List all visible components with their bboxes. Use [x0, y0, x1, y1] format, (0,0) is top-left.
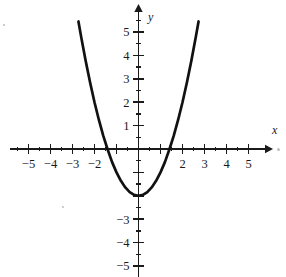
axis-labels-group: x y: [147, 10, 278, 137]
x-tick-label: 4: [223, 157, 230, 171]
y-axis-label: y: [147, 10, 154, 24]
scan-speck-right: [277, 148, 280, 151]
y-axis-arrowhead: [134, 4, 142, 12]
y-tick-label: −3: [116, 213, 129, 227]
x-axis-label: x: [271, 123, 278, 137]
x-axis-arrowhead: [265, 145, 273, 153]
tick-marks-group: [18, 20, 249, 266]
x-tick-label: 2: [179, 157, 185, 171]
graph-figure: −5−4−3−2234554321−3−4−5 x y: [0, 0, 286, 277]
x-tick-label: −3: [66, 157, 79, 171]
x-tick-label: −2: [88, 157, 101, 171]
y-tick-label: 4: [123, 49, 130, 63]
y-tick-label: 2: [123, 96, 129, 110]
x-tick-label: 5: [245, 157, 251, 171]
y-tick-label: 1: [123, 119, 129, 133]
y-tick-label: −4: [116, 236, 130, 250]
x-tick-label: 3: [201, 157, 207, 171]
scan-speck-top: [3, 24, 5, 26]
x-tick-label: −4: [44, 157, 58, 171]
y-tick-label: −5: [116, 259, 129, 273]
y-tick-label: 5: [123, 25, 129, 39]
x-tick-label: −5: [22, 157, 35, 171]
coordinate-plane-svg: −5−4−3−2234554321−3−4−5 x y: [0, 0, 286, 277]
y-tick-label: 3: [123, 72, 129, 86]
axes-group: [10, 4, 273, 276]
scan-speck-left: [62, 206, 64, 208]
